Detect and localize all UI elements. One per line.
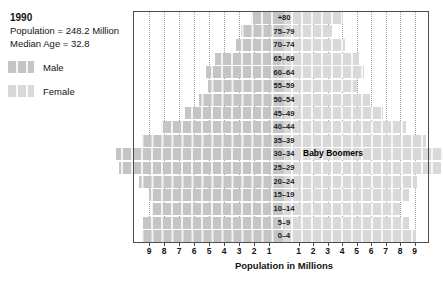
female-bar	[284, 107, 383, 119]
axis-tick	[224, 243, 225, 246]
gridline	[415, 11, 416, 243]
axis-tick	[400, 243, 401, 246]
female-bar	[284, 203, 400, 215]
axis-tick-label: 3	[325, 246, 330, 256]
female-bar	[284, 135, 426, 147]
axis-tick-label: 6	[192, 246, 197, 256]
age-label: 65–69	[274, 52, 295, 66]
age-label: 15–19	[274, 188, 295, 202]
axis-tick-label: 8	[162, 246, 167, 256]
male-bar	[149, 189, 284, 201]
female-bar	[284, 121, 406, 133]
age-label: 20–24	[274, 175, 295, 189]
female-color-swatch	[8, 85, 34, 97]
female-bar	[284, 80, 357, 92]
axis-tick	[164, 243, 165, 246]
age-label: 40–44	[274, 120, 295, 134]
age-label: 25–29	[274, 161, 295, 175]
legend-female-label: Female	[43, 86, 75, 97]
axis-tick	[149, 243, 150, 246]
axis-tick	[328, 243, 329, 246]
axis-tick-label: 7	[383, 246, 388, 256]
female-bar	[284, 53, 359, 65]
axis-tick-label: 1	[267, 246, 272, 256]
male-bar	[142, 230, 285, 242]
male-bar	[161, 121, 284, 133]
age-label: 70–74	[274, 38, 295, 52]
age-label: 35–39	[274, 134, 295, 148]
axis-tick	[386, 243, 387, 246]
chart-header: 1990 Population = 248.2 Million Median A…	[10, 11, 119, 50]
axis-tick	[239, 243, 240, 246]
axis-tick-label: 4	[340, 246, 345, 256]
male-color-swatch	[8, 61, 34, 73]
year-label: 1990	[10, 11, 119, 24]
axis-tick-label: 6	[369, 246, 374, 256]
female-bar	[284, 162, 441, 174]
age-label: 0–4	[278, 229, 291, 243]
female-bar	[284, 66, 364, 78]
axis-tick	[342, 243, 343, 246]
age-label: 30–34	[274, 147, 295, 161]
male-bar	[185, 107, 284, 119]
age-label: +80	[278, 11, 291, 25]
male-bar	[206, 66, 284, 78]
axis-tick	[415, 243, 416, 246]
male-bar	[142, 135, 285, 147]
age-label: 10–14	[274, 202, 295, 216]
axis-tick-label: 5	[354, 246, 359, 256]
age-label: 55–59	[274, 79, 295, 93]
population-pyramid-figure: 1990 Population = 248.2 Million Median A…	[0, 0, 443, 281]
median-age-label: Median Age = 32.8	[10, 37, 119, 50]
axis-tick-label: 8	[398, 246, 403, 256]
female-bar	[284, 12, 343, 24]
axis-tick-label: 4	[222, 246, 227, 256]
population-total-label: Population = 248.2 Million	[10, 24, 119, 37]
female-bar	[284, 94, 370, 106]
male-bar	[199, 94, 285, 106]
axis-tick-label: 9	[147, 246, 152, 256]
male-bar	[139, 176, 285, 188]
gridline	[149, 11, 150, 243]
plot-area: Baby Boomers +8075–7970–7465–6960–6455–5…	[133, 11, 429, 243]
age-label: 50–54	[274, 93, 295, 107]
axis-tick	[179, 243, 180, 246]
male-bar	[152, 203, 284, 215]
axis-tick-label: 2	[311, 246, 316, 256]
female-bar	[284, 189, 409, 201]
axis-tick	[209, 243, 210, 246]
axis-tick	[299, 243, 300, 246]
baby-boomers-annotation: Baby Boomers	[303, 147, 363, 161]
age-label: 60–64	[274, 66, 295, 80]
legend-item-female: Female	[8, 85, 75, 97]
x-axis-title: Population in Millions	[235, 260, 333, 271]
male-bar	[116, 148, 284, 160]
axis-tick-label: 7	[177, 246, 182, 256]
axis-tick	[313, 243, 314, 246]
female-bar	[284, 217, 409, 229]
axis-tick	[254, 243, 255, 246]
axis-tick-label: 5	[207, 246, 212, 256]
age-label: 45–49	[274, 107, 295, 121]
legend-male-label: Male	[43, 62, 64, 73]
male-bar	[143, 217, 284, 229]
axis-tick	[371, 243, 372, 246]
axis-tick-label: 3	[237, 246, 242, 256]
axis-tick	[269, 243, 270, 246]
axis-tick	[194, 243, 195, 246]
female-bar	[284, 230, 416, 242]
male-bar	[119, 162, 284, 174]
female-bar	[284, 176, 417, 188]
axis-tick-label: 9	[412, 246, 417, 256]
axis-tick-label: 1	[296, 246, 301, 256]
age-label: 75–79	[274, 25, 295, 39]
axis-tick	[357, 243, 358, 246]
axis-tick-label: 2	[252, 246, 257, 256]
age-label: 5–9	[278, 216, 291, 230]
male-bar	[208, 80, 285, 92]
legend-item-male: Male	[8, 61, 64, 73]
